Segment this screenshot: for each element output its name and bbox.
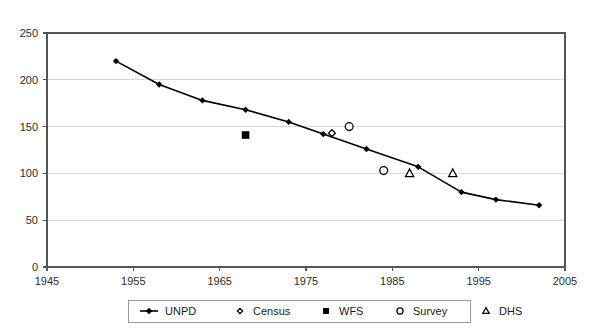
legend-label: DHS	[499, 305, 522, 317]
x-tick-label: 1965	[207, 275, 231, 287]
marker-circle-open	[345, 123, 353, 131]
x-tick-label: 1995	[466, 275, 490, 287]
marker-square-filled	[242, 131, 250, 139]
legend-label: Census	[253, 305, 291, 317]
x-tick-label: 1975	[294, 275, 318, 287]
series-wfs	[242, 131, 250, 139]
legend-label: UNPD	[165, 305, 196, 317]
y-tick-label: 250	[20, 27, 38, 39]
y-tick-label: 50	[26, 214, 38, 226]
x-tick-label: 1985	[380, 275, 404, 287]
y-tick-label: 150	[20, 121, 38, 133]
legend-label: Survey	[413, 305, 448, 317]
x-tick-label: 1955	[121, 275, 145, 287]
chart-legend: UNPDCensusWFSSurveyDHS	[128, 300, 522, 322]
legend-label: WFS	[339, 305, 363, 317]
marker-square-filled	[323, 308, 329, 314]
marker-circle-open	[397, 308, 403, 314]
y-tick-label: 200	[20, 74, 38, 86]
x-tick-label: 2005	[553, 275, 577, 287]
x-tick-label: 1945	[35, 275, 59, 287]
marker-circle-open	[380, 167, 388, 175]
mortality-trend-chart: 050100150200250 194519551965197519851995…	[0, 0, 596, 333]
chart-container: 050100150200250 194519551965197519851995…	[0, 0, 596, 333]
y-tick-label: 0	[32, 261, 38, 273]
y-tick-label: 100	[20, 167, 38, 179]
